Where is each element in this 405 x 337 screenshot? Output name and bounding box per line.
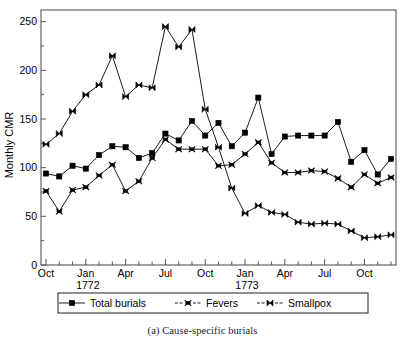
x-tick-label: Jul xyxy=(318,267,331,279)
x-tick-label: Oct xyxy=(38,267,54,279)
x-tick-label: Apr xyxy=(117,267,134,279)
x-tick-label: Oct xyxy=(356,267,372,279)
x-axis-year-label: 1773 xyxy=(235,279,259,291)
x-tick-label: Oct xyxy=(197,267,213,279)
legend-label-smallpox: Smallpox xyxy=(288,297,332,309)
y-axis-title: Monthly CMR xyxy=(3,112,15,179)
y-tick-label: 0 xyxy=(31,259,37,271)
y-tick-label: 250 xyxy=(19,15,37,27)
x-tick-label: Jan xyxy=(77,267,94,279)
figure-caption: (a) Cause-specific burials xyxy=(0,325,405,336)
figure-container: 050100150200250OctJanAprJulOctJanAprJulO… xyxy=(0,0,405,337)
x-tick-label: Jul xyxy=(159,267,172,279)
y-tick-label: 150 xyxy=(19,113,37,125)
x-axis-year-label: 1772 xyxy=(76,279,100,291)
y-tick-label: 50 xyxy=(25,210,37,222)
legend-label-fevers: Fevers xyxy=(206,297,238,309)
y-tick-label: 200 xyxy=(19,64,37,76)
chart-legend: Total burialsFeversSmallpox xyxy=(58,293,368,313)
legend-label-total-burials: Total burials xyxy=(90,297,146,309)
x-tick-label: Apr xyxy=(277,267,294,279)
cause-specific-burials-chart: 050100150200250OctJanAprJulOctJanAprJulO… xyxy=(0,0,405,337)
y-tick-label: 100 xyxy=(19,161,37,173)
x-tick-label: Jan xyxy=(237,267,254,279)
